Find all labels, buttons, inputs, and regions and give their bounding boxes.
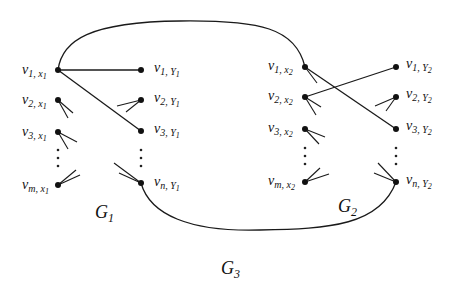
edge-v2x2-v1y2 <box>305 67 396 97</box>
node-vny2 <box>393 179 399 185</box>
label-v2y2: v2, Y2 <box>406 86 432 105</box>
stubs-g1-right <box>114 100 141 183</box>
label-v1y1: v1, Y1 <box>154 60 180 79</box>
node-vmx1 <box>55 182 61 188</box>
diagram-svg: v1, x1 v2, x1 v3, x1 vm, x1 v1, Y1 v2, Y… <box>0 0 450 294</box>
label-vny2: vn, Y2 <box>406 172 432 191</box>
node-v3x1 <box>55 129 61 135</box>
node-v2x2 <box>302 94 308 100</box>
label-v1x1: v1, x1 <box>22 62 47 81</box>
graph-label-g3: G3 <box>221 258 240 281</box>
node-v3y1 <box>138 128 144 134</box>
label-v3y1: v3, Y1 <box>154 121 180 140</box>
label-v2x1: v2, x1 <box>22 92 47 111</box>
node-v1y2 <box>393 64 399 70</box>
edge-v1x1-v3y1 <box>58 70 141 131</box>
stubs-g2-left <box>305 67 329 182</box>
node-v3x2 <box>302 126 308 132</box>
graph-label-g1: G1 <box>95 202 114 225</box>
label-v1y2: v1, Y2 <box>406 56 432 75</box>
label-v2y1: v2, Y1 <box>154 90 180 109</box>
label-vmx2: vm, x2 <box>268 173 295 192</box>
node-v1x1 <box>55 67 61 73</box>
label-v2x2: v2, x2 <box>268 88 293 107</box>
stubs-g1-left <box>58 100 80 185</box>
label-v3x1: v3, x1 <box>22 124 47 143</box>
node-vny1 <box>138 180 144 186</box>
node-v2y1 <box>138 97 144 103</box>
node-v2x1 <box>55 97 61 103</box>
node-v1y1 <box>138 67 144 73</box>
label-vny1: vn, Y1 <box>154 174 180 193</box>
label-v3y2: v3, Y2 <box>406 118 432 137</box>
node-v2y2 <box>393 94 399 100</box>
label-vmx1: vm, x1 <box>22 177 49 196</box>
node-v1x2 <box>302 64 308 70</box>
graph-diagram: v1, x1 v2, x1 v3, x1 vm, x1 v1, Y1 v2, Y… <box>0 0 450 294</box>
edge-v1x2-v3y2 <box>305 67 396 129</box>
label-v3x2: v3, x2 <box>268 120 293 139</box>
stubs-g2-right <box>374 97 396 182</box>
node-vmx2 <box>302 179 308 185</box>
node-v3y2 <box>393 126 399 132</box>
ellipsis-dots <box>57 147 398 168</box>
label-v1x2: v1, x2 <box>268 58 293 77</box>
graph-label-g2: G2 <box>338 196 357 219</box>
